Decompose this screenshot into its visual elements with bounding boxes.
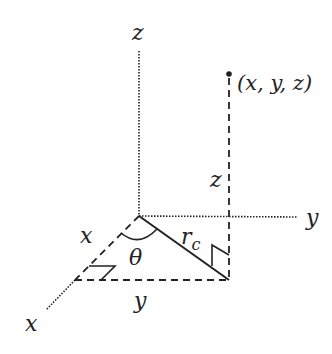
y-axis: [139, 216, 297, 217]
x-component-label: x: [80, 223, 93, 248]
angle-label: θ: [129, 245, 142, 270]
angle-arc: [121, 229, 157, 240]
x-axis-label: x: [25, 311, 38, 336]
point-marker: [226, 71, 232, 77]
radius-label: rc: [181, 224, 201, 254]
point-label: (x, y, z): [237, 71, 312, 95]
x-axis-dotted-extension: [46, 280, 75, 310]
y-component-label: y: [133, 288, 147, 313]
z-axis-label: z: [131, 20, 144, 45]
cylindrical-coordinates-diagram: z y x (x, y, z) z x y θ rc: [0, 0, 332, 354]
y-axis-label: y: [305, 205, 319, 230]
height-label: z: [209, 167, 222, 192]
radius-subscript: c: [192, 235, 201, 254]
right-angle-marker-z: [212, 245, 229, 266]
right-angle-marker-xy: [89, 266, 115, 280]
